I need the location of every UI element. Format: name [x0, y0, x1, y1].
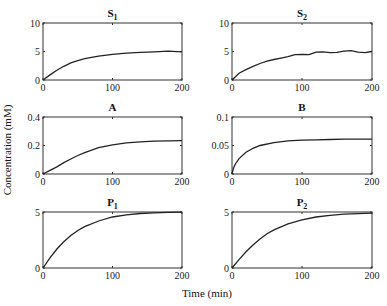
series-line-s2	[232, 51, 372, 80]
subplot-p2: P2010020005	[224, 196, 380, 281]
x-tick-label: 200	[365, 176, 380, 187]
subplot-b: B010020000.050.1	[212, 101, 380, 187]
subplot-title: P2	[297, 196, 308, 211]
plot-frame	[43, 117, 182, 174]
x-tick-label: 200	[175, 270, 190, 281]
x-tick-label: 200	[175, 82, 190, 93]
x-tick-label: 0	[230, 176, 235, 187]
plot-frame	[232, 23, 372, 80]
series-line-a	[43, 141, 182, 174]
x-tick-label: 100	[295, 270, 310, 281]
y-tick-label: 0.4	[28, 112, 41, 123]
y-tick-label: 5	[35, 207, 40, 218]
y-tick-label: 0.1	[217, 112, 230, 123]
subplot-s1: S101002000510	[30, 7, 190, 93]
subplot-title: S1	[107, 7, 117, 22]
series-line-b	[232, 139, 372, 174]
x-tick-label: 0	[41, 270, 46, 281]
y-tick-label: 0	[224, 75, 229, 86]
y-tick-label: 0.05	[212, 140, 230, 151]
y-tick-label: 0	[224, 169, 229, 180]
x-tick-label: 200	[365, 82, 380, 93]
y-tick-label: 0	[35, 75, 40, 86]
x-tick-label: 100	[295, 176, 310, 187]
y-axis-label: Concentration (mM)	[1, 104, 14, 195]
x-tick-label: 100	[105, 82, 120, 93]
y-tick-label: 10	[219, 18, 229, 29]
plot-frame	[232, 117, 372, 174]
y-tick-label: 5	[224, 207, 229, 218]
y-tick-label: 0	[35, 169, 40, 180]
x-tick-label: 0	[230, 270, 235, 281]
plot-frame	[43, 212, 182, 268]
figure-canvas: S101002000510S201002000510A010020000.20.…	[0, 0, 387, 306]
y-tick-label: 0.2	[28, 140, 41, 151]
y-tick-label: 0	[224, 263, 229, 274]
subplot-grid: S101002000510S201002000510A010020000.20.…	[28, 7, 380, 281]
subplot-s2: S201002000510	[219, 7, 380, 93]
x-tick-label: 0	[41, 82, 46, 93]
subplot-a: A010020000.20.4	[28, 101, 190, 187]
y-tick-label: 5	[35, 46, 40, 57]
y-tick-label: 0	[35, 263, 40, 274]
y-tick-label: 5	[224, 46, 229, 57]
x-tick-label: 200	[365, 270, 380, 281]
subplot-title: B	[298, 101, 306, 113]
series-line-s1	[43, 51, 182, 80]
x-tick-label: 0	[41, 176, 46, 187]
x-tick-label: 100	[295, 82, 310, 93]
subplot-p1: P1010020005	[35, 196, 190, 281]
x-axis-label: Time (min)	[182, 287, 232, 300]
x-tick-label: 100	[105, 270, 120, 281]
y-tick-label: 10	[30, 18, 40, 29]
x-tick-label: 200	[175, 176, 190, 187]
series-line-p2	[232, 213, 372, 268]
subplot-title: P1	[107, 196, 118, 211]
subplot-title: A	[109, 101, 117, 113]
series-line-p1	[43, 212, 182, 268]
x-tick-label: 100	[105, 176, 120, 187]
x-tick-label: 0	[230, 82, 235, 93]
subplot-title: S2	[297, 7, 307, 22]
